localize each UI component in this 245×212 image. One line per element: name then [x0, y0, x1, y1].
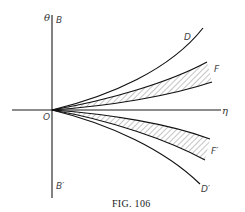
label-f-prime: F′ — [211, 146, 218, 156]
theta-axis-label: θ — [44, 12, 50, 23]
figure-caption: FIG. 106 — [112, 198, 151, 209]
lower-hatched-band — [52, 110, 210, 160]
label-d: D — [184, 32, 191, 42]
eta-axis-label: η — [222, 105, 228, 116]
label-f: F — [214, 64, 220, 74]
figure-106: θ B η O B′ D F F′ D′ FIG. 106 — [0, 0, 245, 212]
label-b: B — [56, 15, 62, 25]
label-b-prime: B′ — [56, 181, 64, 191]
origin-label: O — [43, 112, 50, 122]
label-d-prime: D′ — [201, 184, 210, 194]
upper-hatched-band — [52, 62, 212, 110]
